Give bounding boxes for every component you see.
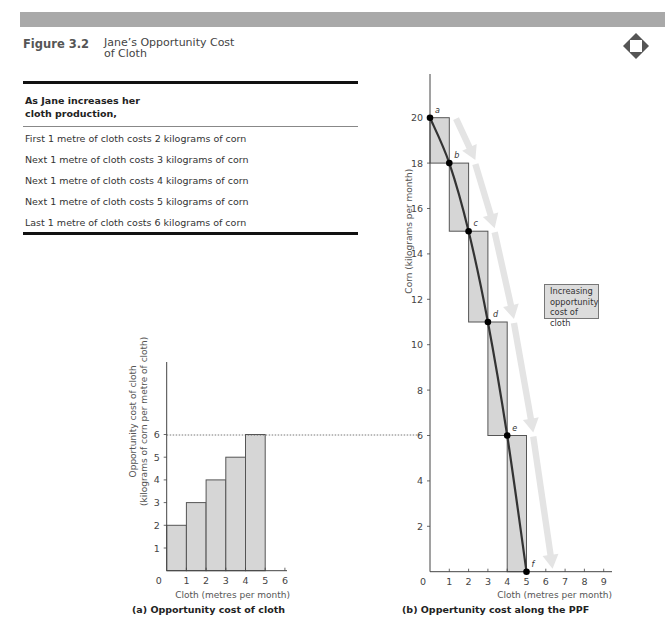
ppf-point-e (504, 432, 511, 439)
ppf-point-b (446, 160, 453, 167)
bar (167, 525, 187, 570)
y-tick-label: 18 (411, 158, 423, 169)
bar (246, 435, 266, 571)
x-tick-label: 5 (523, 576, 529, 587)
increasing-cost-arrow (530, 436, 558, 569)
point-label-c: c (474, 219, 479, 228)
point-label-f: f (532, 560, 536, 569)
x-tick-label: 6 (282, 575, 288, 586)
y-tick-label: 2 (154, 520, 160, 531)
x-tick-label: 4 (504, 576, 510, 587)
x-tick-label: 2 (203, 575, 209, 586)
y-tick-label: 2 (417, 521, 423, 532)
x-tick-label: 3 (485, 576, 491, 587)
y-tick-label: 3 (154, 497, 160, 508)
x-tick-label: 9 (601, 576, 607, 587)
y-tick-label: 4 (417, 475, 423, 486)
chart-b: 24681012141618200123456789abcdef (411, 74, 612, 587)
x-tick-label: 3 (223, 575, 229, 586)
y-tick-label: 4 (154, 474, 160, 485)
chart-a-ylabel-line1: Opportunity cost of cloth (128, 365, 138, 477)
point-label-e: e (512, 424, 517, 433)
x-tick-label: 6 (543, 576, 549, 587)
bar (186, 503, 206, 571)
chart-b-ylabel: Corn (kilograms per month) (404, 169, 414, 294)
point-label-d: d (493, 310, 499, 319)
ppf-point-a (427, 114, 434, 121)
increasing-cost-arrow (511, 322, 539, 432)
x-tick-label: 8 (581, 576, 587, 587)
annotation-box: Increasing opportunity cost of cloth (544, 284, 599, 319)
annotation-line1: Increasing (550, 286, 598, 297)
y-tick-label: 6 (154, 429, 160, 440)
annotation-line3: cost of cloth (550, 307, 598, 328)
chart-b-xlabel: Cloth (metres per month) (497, 590, 612, 600)
ppf-point-c (465, 228, 472, 235)
x-tick-label: 0 (420, 576, 426, 587)
annotation-line2: opportunity (550, 297, 598, 308)
x-tick-label: 5 (262, 575, 268, 586)
y-tick-label: 12 (411, 294, 423, 305)
x-tick-label: 4 (242, 575, 248, 586)
y-tick-label: 8 (417, 385, 423, 396)
bar (206, 480, 226, 571)
x-tick-label: 1 (446, 576, 452, 587)
ppf-point-f (523, 568, 530, 575)
point-label-a: a (435, 106, 440, 115)
bar (226, 457, 246, 571)
x-tick-label: 7 (562, 576, 568, 587)
x-tick-label: 0 (156, 575, 162, 586)
chart-a: 1234560123456 (154, 362, 288, 586)
y-tick-label: 1 (154, 543, 160, 554)
y-tick-label: 20 (411, 112, 423, 123)
y-tick-label: 5 (154, 452, 160, 463)
chart-a-xlabel: Cloth (metres per month) (175, 590, 290, 600)
point-label-b: b (454, 151, 459, 160)
y-tick-label: 6 (417, 430, 423, 441)
x-tick-label: 1 (183, 575, 189, 586)
increasing-cost-arrow (492, 232, 519, 319)
chart-a-caption: (a) Opportunity cost of cloth (132, 604, 285, 615)
chart-b-caption: (b) Oppertunity cost along the PPF (402, 604, 589, 615)
x-tick-label: 2 (466, 576, 472, 587)
ppf-point-d (485, 319, 492, 326)
chart-a-ylabel-line2: (kilograms of corn per metre of cloth) (139, 337, 149, 506)
y-tick-label: 10 (411, 339, 423, 350)
